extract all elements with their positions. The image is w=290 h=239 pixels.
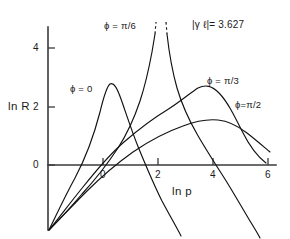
gamma-l-annotation: |γ ℓ|= 3.627 [192,20,244,30]
y-tick-label-2: 2 [33,102,39,112]
curve-phi-pi6-left-dashed-tip [155,22,156,34]
y-axis-title: ln R [8,101,30,113]
x-tick-label-6: 6 [265,170,271,180]
curve-label-phi-pi6: ϕ = π/6 [104,21,136,31]
curve-label-phi-pi2: ϕ=π/2 [235,100,261,110]
x-tick-label-4: 4 [210,170,216,180]
x-tick-label-2: 2 [155,170,161,180]
curve-label-phi-pi3: ϕ = π/3 [207,76,239,86]
y-tick-label-0: 0 [33,160,39,170]
curve-phi-0 [49,84,181,236]
curve-phi-pi6-left [49,34,155,230]
x-tick-label-0: 0 [100,170,106,180]
curve-phi-pi6-right-dashed-tip [166,22,167,34]
curve-phi-pi6-right [167,34,260,238]
x-axis-title: ln p [172,186,192,198]
curve-label-phi-0: ϕ = 0 [70,84,92,94]
figure-container: 4 2 0 0 2 4 6 ln R ln p ϕ = 0 ϕ = π/6 ϕ … [0,0,290,239]
plot-area [0,0,290,239]
curve-phi-pi3 [49,86,266,230]
y-tick-label-4: 4 [33,43,39,53]
